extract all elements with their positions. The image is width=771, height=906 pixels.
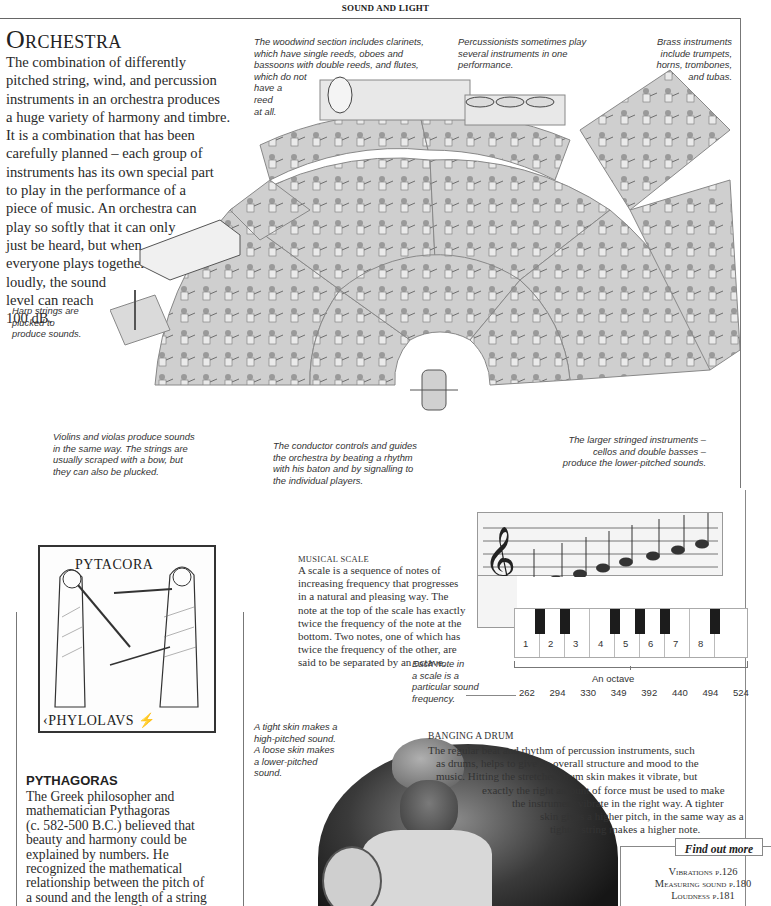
- note-frequency-caption: Each note in a scale is a particular sou…: [412, 658, 479, 704]
- body-line: skin gives a higher pitch, in the same w…: [428, 810, 748, 823]
- caption-line: sound.: [254, 767, 338, 779]
- top-rule: [0, 18, 740, 19]
- sheet-music: 𝄞: [477, 512, 723, 576]
- caption-line: The conductor controls and guides: [273, 440, 417, 452]
- caption-line: usually scraped with a bow, but: [53, 454, 195, 466]
- caption-line: cellos and double basses –: [556, 446, 706, 458]
- body-line: twice the frequency of the note at the: [298, 617, 478, 630]
- percussion-caption: Percussionists sometimes play several in…: [458, 36, 586, 71]
- caption-line: Percussionists sometimes play: [458, 36, 586, 48]
- body-line: The regular beat and rhythm of percussio…: [428, 744, 748, 757]
- black-key[interactable]: [660, 609, 670, 634]
- frequency-value: 524: [733, 687, 749, 698]
- drum-body: The regular beat and rhythm of percussio…: [428, 744, 748, 836]
- find-out-more-title-box: Find out more: [675, 838, 763, 856]
- drum-heading: Banging a drum: [428, 731, 514, 741]
- key-number: 2: [548, 638, 553, 649]
- caption-line: have a: [254, 82, 424, 94]
- body-line: recognized the mathematical: [26, 862, 241, 876]
- body-line: mathematician Pythagoras: [26, 804, 241, 818]
- black-key[interactable]: [635, 609, 645, 634]
- caption-line: produce the lower-pitched sounds.: [556, 457, 706, 469]
- caption-line: with his baton and by signalling to: [273, 463, 417, 475]
- woodcut-figures-icon: [40, 547, 214, 731]
- sheet-music-lower: [477, 576, 517, 628]
- key-number: 7: [673, 638, 678, 649]
- caption-line: plucked to: [12, 317, 81, 329]
- frequency-value: 440: [672, 687, 688, 698]
- caption-line: Violins and violas produce sounds: [53, 431, 195, 443]
- find-out-more-list: Vibrations p.126 Measuring sound p.180 L…: [620, 866, 771, 902]
- body-line: (c. 582-500 B.C.) believed that: [26, 819, 241, 833]
- key-number: 3: [573, 638, 578, 649]
- caption-line: which have single reeds, oboes and: [254, 48, 424, 60]
- drum-skin-caption: A tight skin makes a high-pitched sound.…: [254, 721, 338, 779]
- caption-line: at all.: [254, 106, 424, 118]
- key-number: 6: [648, 638, 653, 649]
- musical-scale-body: A scale is a sequence of notes of increa…: [298, 564, 478, 670]
- staff-notes-icon: 𝄞: [478, 513, 724, 577]
- caption-line: The larger stringed instruments –: [556, 434, 706, 446]
- caption-line: Brass instruments: [640, 36, 732, 48]
- caption-line: horns, trombones,: [640, 59, 732, 71]
- body-line: The Greek philosopher and: [26, 790, 241, 804]
- frequency-value: 349: [611, 687, 627, 698]
- body-line: A scale is a sequence of notes of: [298, 564, 478, 577]
- body-line: twice the frequency of the other, are: [298, 643, 478, 656]
- key-number: 4: [598, 638, 603, 649]
- caption-line: and tubas.: [640, 71, 732, 83]
- piano-keyboard: 1 2 3 4 5 6 7 8: [514, 608, 748, 658]
- caption-line: A loose skin makes: [254, 744, 338, 756]
- body-line: relationship between the pitch of: [26, 876, 241, 890]
- black-key[interactable]: [610, 609, 620, 634]
- frequency-value: 494: [702, 687, 718, 698]
- woodcut-top-label: PYTACORA: [75, 557, 153, 573]
- frequency-value: 294: [550, 687, 566, 698]
- link-loudness[interactable]: Loudness p.181: [620, 890, 771, 902]
- caption-line: several instruments in one: [458, 48, 586, 60]
- caption-line: in the same way. The strings are: [53, 443, 195, 455]
- caption-line: produce sounds.: [12, 328, 81, 340]
- body-line: a sound and the length of a string: [26, 891, 241, 905]
- caption-line: a lower-pitched: [254, 756, 338, 768]
- conductor-caption: The conductor controls and guides the or…: [273, 440, 417, 486]
- caption-line: The woodwind section includes clarinets,: [254, 36, 424, 48]
- link-vibrations[interactable]: Vibrations p.126: [620, 866, 771, 878]
- caption-line: Each note in: [412, 658, 479, 670]
- key-number: 5: [623, 638, 628, 649]
- body-line: increasing frequency that progresses: [298, 577, 478, 590]
- octave-label: An octave: [592, 673, 634, 684]
- body-line: note at the top of the scale has exactly: [298, 604, 478, 617]
- pythagoras-heading: PYTHAGORAS: [26, 773, 118, 788]
- leader-line: [466, 695, 516, 696]
- caption-line: A tight skin makes a: [254, 721, 338, 733]
- key-number: 8: [698, 638, 703, 649]
- key-number: 1: [523, 638, 528, 649]
- body-line: the instrument vibrate in the right way.…: [428, 797, 748, 810]
- black-key[interactable]: [560, 609, 570, 634]
- musical-scale-heading: Musical scale: [298, 554, 369, 564]
- black-key[interactable]: [535, 609, 545, 634]
- body-line: beauty and harmony could be: [26, 833, 241, 847]
- caption-line: include trumpets,: [640, 48, 732, 60]
- frequency-value: 392: [641, 687, 657, 698]
- caption-line: the individual players.: [273, 475, 417, 487]
- right-rule: [740, 18, 741, 488]
- pythagoras-body: The Greek philosopher and mathematician …: [26, 790, 241, 906]
- caption-line: bassoons with double reeds, and flutes,: [254, 59, 424, 71]
- octave-bracket: [514, 661, 748, 668]
- body-line: tighter string makes a higher note.: [428, 823, 748, 836]
- body-line: music. Hitting the stretched drum skin m…: [428, 770, 748, 783]
- caption-line: reed: [254, 94, 424, 106]
- caption-line: they can also be plucked.: [53, 466, 195, 478]
- link-measuring-sound[interactable]: Measuring sound p.180: [620, 878, 771, 890]
- body-line: bottom. Two notes, one of which has: [298, 630, 478, 643]
- frequency-value: 330: [580, 687, 596, 698]
- black-key[interactable]: [710, 609, 720, 634]
- orchestra-illustration: [110, 40, 740, 440]
- frequency-value: 262: [519, 687, 535, 698]
- body-line: in a natural and pleasing way. The: [298, 590, 478, 603]
- caption-line: Harp strings are: [12, 305, 81, 317]
- woodwind-caption: The woodwind section includes clarinets,…: [254, 36, 424, 117]
- body-line: exactly the right amount of force must b…: [428, 784, 748, 797]
